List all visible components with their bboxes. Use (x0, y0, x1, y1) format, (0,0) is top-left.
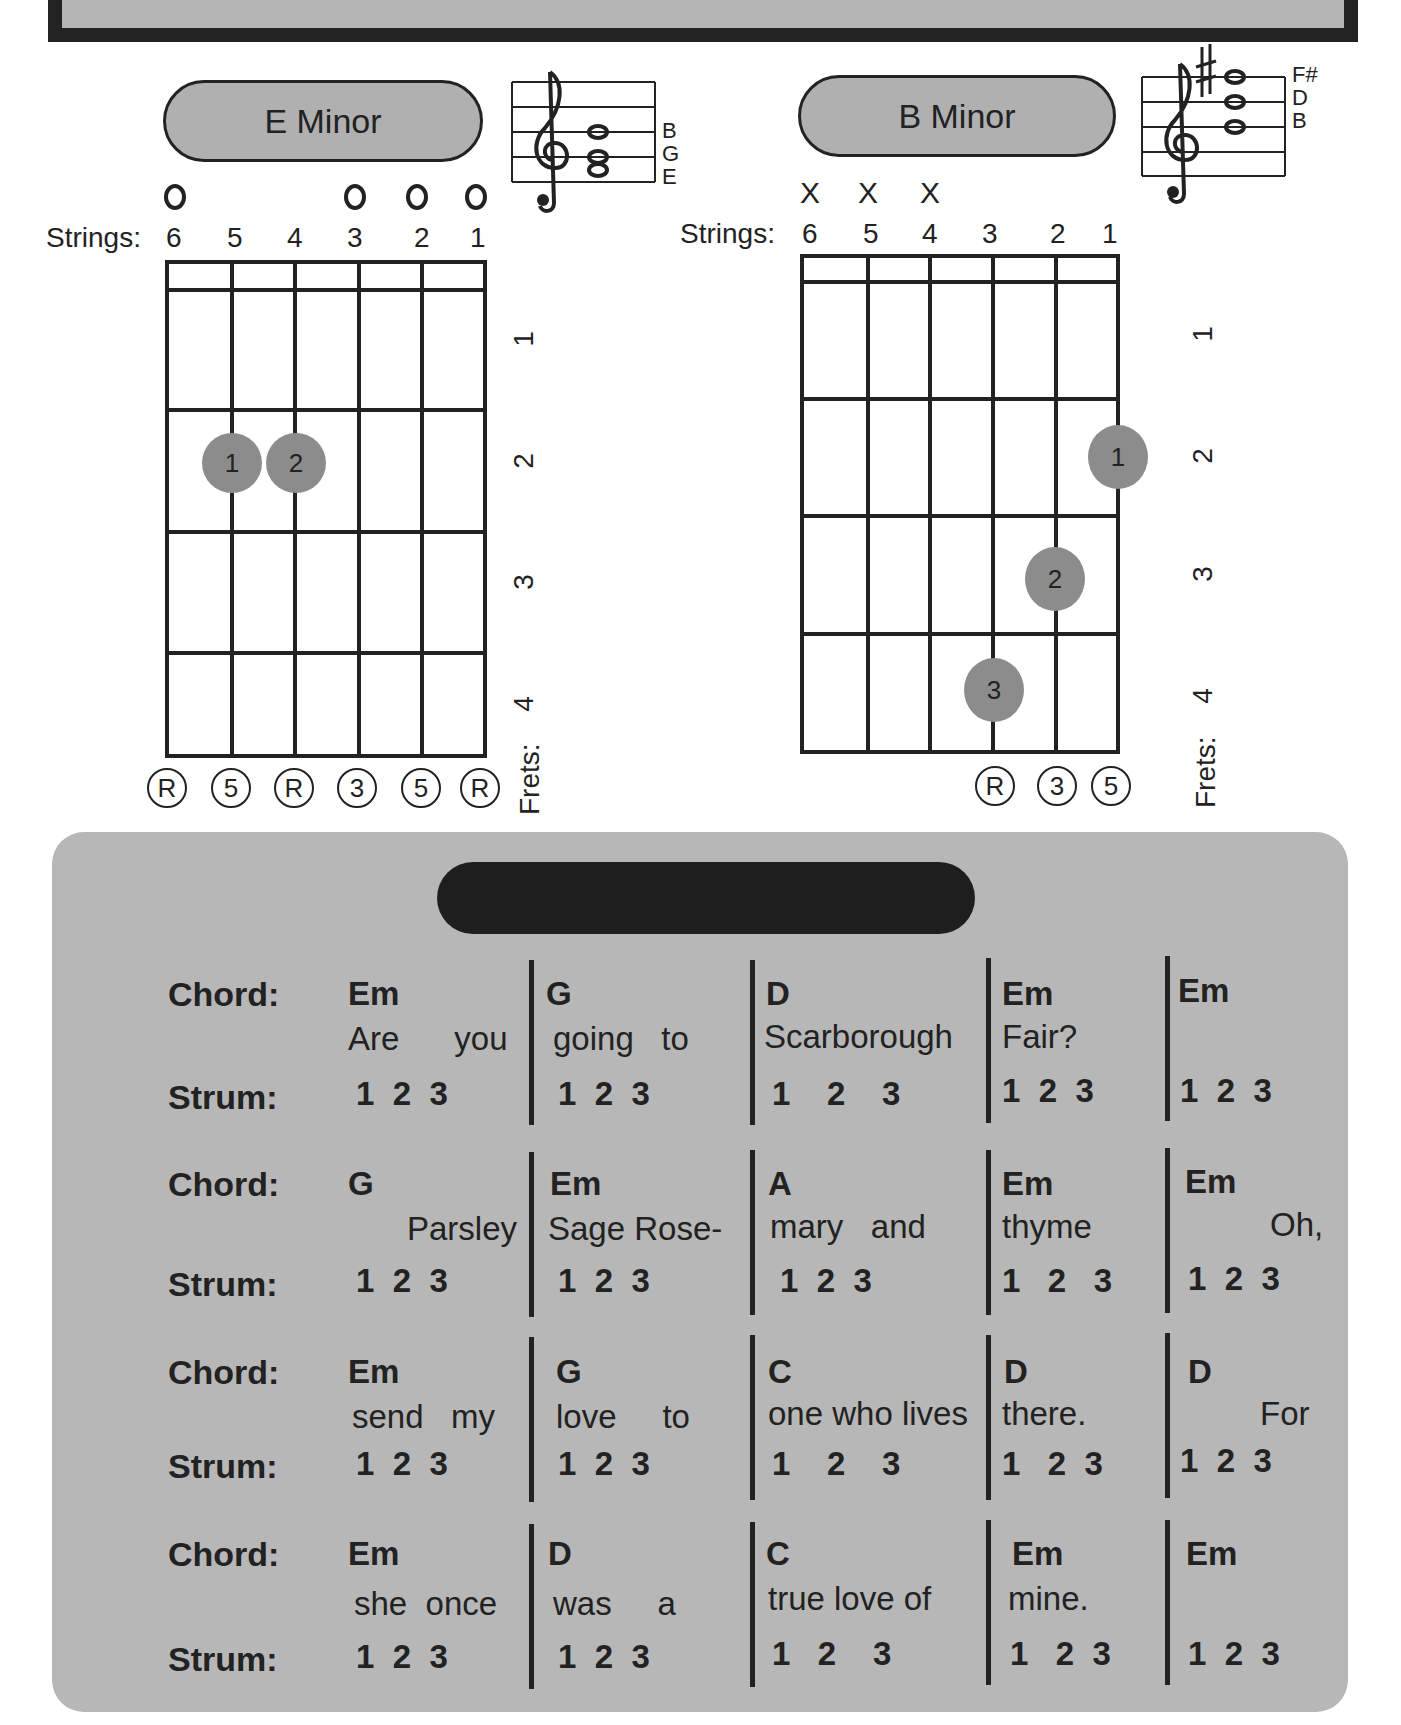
finger-dot: 1 (202, 433, 262, 493)
open-string-marker (465, 184, 487, 210)
measure-lyric: mary and (770, 1208, 926, 1246)
measure-chord: D (1188, 1353, 1212, 1391)
interval-marker: 5 (1091, 766, 1131, 806)
string-number: 1 (470, 222, 486, 254)
measure-lyric: Fair? (1002, 1018, 1077, 1056)
measure-lyric: love to (556, 1398, 690, 1436)
measure-chord: C (766, 1535, 790, 1573)
staff-note-label: F# (1292, 64, 1318, 86)
measure-strum: 1 2 3 (356, 1638, 448, 1676)
finger-dot: 2 (266, 433, 326, 493)
measure-strum: 1 2 3 (1188, 1635, 1280, 1673)
measure-strum: 1 2 3 (772, 1445, 900, 1483)
bar-line (1165, 1520, 1170, 1685)
string-number: 2 (414, 222, 430, 254)
interval-marker: 5 (211, 768, 251, 808)
measure-chord: D (1004, 1353, 1028, 1391)
interval-marker: R (147, 768, 187, 808)
string-number: 1 (1102, 218, 1118, 250)
measure-lyric: going to (553, 1020, 689, 1058)
fret-number: 1 (508, 331, 540, 347)
measure-lyric: Sage Rose- (548, 1210, 722, 1248)
string-number: 5 (863, 218, 879, 250)
bar-line (986, 1335, 991, 1500)
string-number: 3 (347, 222, 363, 254)
open-string-marker (406, 184, 428, 210)
fret-number: 2 (1187, 448, 1219, 464)
string-number: 6 (166, 222, 182, 254)
bar-line (750, 1150, 755, 1315)
measure-strum: 1 2 3 (1010, 1635, 1111, 1673)
treble-staff-b-minor (1140, 42, 1290, 212)
measure-chord: Em (1178, 972, 1229, 1010)
measure-chord: C (768, 1353, 792, 1391)
frets-label: Frets: (1190, 736, 1222, 808)
bar-line (1165, 956, 1170, 1121)
frets-label: Frets: (514, 743, 546, 815)
fret-number: 4 (1187, 688, 1219, 704)
measure-lyric: true love of (768, 1580, 931, 1618)
measure-chord: Em (348, 1535, 399, 1573)
string-number: 5 (227, 222, 243, 254)
bar-line (1165, 1148, 1170, 1313)
measure-lyric: mine. (1008, 1580, 1089, 1618)
string-number: 2 (1050, 218, 1066, 250)
open-string-marker (164, 184, 186, 210)
muted-string-marker: X (858, 176, 878, 210)
string-number: 3 (982, 218, 998, 250)
strings-label: Strings: (680, 218, 775, 250)
chord-row-label: Chord: (168, 1535, 279, 1574)
measure-lyric: she once (354, 1585, 497, 1623)
measure-chord: Em (1185, 1163, 1236, 1201)
bar-line (529, 1524, 534, 1689)
measure-chord: Em (1002, 1165, 1053, 1203)
measure-lyric: send my (352, 1398, 495, 1436)
measure-chord: G (556, 1353, 582, 1391)
measure-chord: Em (1186, 1535, 1237, 1573)
staff-note-label: D (1292, 87, 1308, 109)
chord-row-label: Chord: (168, 1353, 279, 1392)
bar-line (986, 1520, 991, 1685)
strum-row-label: Strum: (168, 1078, 278, 1117)
measure-strum: 1 2 3 (1180, 1442, 1272, 1480)
bar-line (986, 1150, 991, 1315)
measure-strum: 1 2 3 (356, 1075, 448, 1113)
fretboard-e-minor (165, 260, 490, 760)
measure-strum: 1 2 3 (1188, 1260, 1280, 1298)
measure-chord: A (768, 1165, 792, 1203)
measure-lyric: thyme (1002, 1208, 1092, 1246)
song-title-bar (437, 862, 975, 934)
measure-strum: 1 2 3 (558, 1638, 650, 1676)
measure-lyric: Parsley (407, 1210, 517, 1248)
bar-line (750, 1522, 755, 1687)
measure-strum: 1 2 3 (1002, 1072, 1094, 1110)
bar-line (1165, 1333, 1170, 1498)
measure-strum: 1 2 3 (356, 1445, 448, 1483)
strum-row-label: Strum: (168, 1447, 278, 1486)
measure-strum: 1 2 3 (1002, 1445, 1103, 1483)
fretboard-b-minor (800, 254, 1125, 754)
fret-number: 3 (508, 574, 540, 590)
measure-lyric: Oh, (1270, 1206, 1323, 1244)
measure-strum: 1 2 3 (1180, 1072, 1272, 1110)
strings-label: Strings: (46, 222, 141, 254)
fret-number: 2 (508, 453, 540, 469)
string-number: 6 (802, 218, 818, 250)
string-number: 4 (287, 222, 303, 254)
measure-strum: 1 2 3 (558, 1075, 650, 1113)
staff-note-label: B (1292, 110, 1307, 132)
finger-dot: 2 (1025, 547, 1085, 611)
measure-chord: Em (1002, 975, 1053, 1013)
staff-note-label: G (662, 143, 679, 165)
measure-lyric: Scarborough (764, 1018, 953, 1056)
measure-chord: D (766, 975, 790, 1013)
measure-strum: 1 2 3 (558, 1445, 650, 1483)
chord-row-label: Chord: (168, 1165, 279, 1204)
measure-strum: 1 2 3 (772, 1075, 900, 1113)
bar-line (986, 958, 991, 1123)
string-number: 4 (922, 218, 938, 250)
measure-lyric: Are you (348, 1020, 508, 1058)
interval-marker: 3 (1037, 766, 1077, 806)
chord-row-label: Chord: (168, 975, 279, 1014)
fret-number: 1 (1187, 326, 1219, 342)
